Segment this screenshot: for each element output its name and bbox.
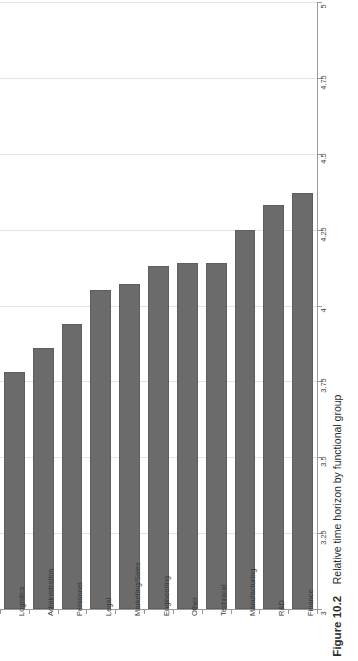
- category-axis-tick: [231, 610, 232, 614]
- category-axis-tick: [86, 610, 87, 614]
- bar: [90, 290, 111, 609]
- category-axis-label: Logistics: [17, 587, 26, 616]
- bar: [292, 193, 313, 609]
- value-axis-tick-label: 3.25: [319, 530, 328, 545]
- value-axis-tick-label: 4: [319, 308, 328, 312]
- value-axis-tick: [318, 306, 322, 307]
- value-axis-tick-label: 4.5: [319, 153, 328, 163]
- caption-text: Relative time horizon by functional grou…: [331, 395, 343, 585]
- bar: [235, 230, 256, 609]
- category-axis-label: Personnel: [75, 582, 84, 616]
- bar: [62, 324, 83, 609]
- value-axis-tick-label: 3: [319, 611, 328, 615]
- category-axis-label: Manufacturing: [248, 568, 257, 616]
- gridline: [0, 78, 317, 79]
- category-axis-label: Technical: [219, 585, 228, 616]
- category-axis-label: Other: [190, 597, 199, 616]
- gridline: [0, 2, 317, 3]
- value-axis-tick: [318, 2, 322, 3]
- category-axis-label: R&D: [277, 600, 286, 616]
- category-axis-tick: [317, 610, 318, 614]
- category-axis-tick: [288, 610, 289, 614]
- chart-area: 33.253.53.7544.254.54.755 LogisticsAdmin…: [0, 0, 318, 661]
- figure-caption: Figure 10.2 Relative time horizon by fun…: [333, 0, 355, 661]
- bar: [148, 266, 169, 609]
- gridline: [0, 154, 317, 155]
- category-axis-label: Administration: [46, 568, 55, 616]
- category-axis-tick: [144, 610, 145, 614]
- bar: [119, 284, 140, 609]
- bar: [206, 263, 227, 609]
- bar: [4, 372, 25, 609]
- value-axis-tick-label: 4.75: [319, 75, 328, 90]
- category-axis-tick: [58, 610, 59, 614]
- category-axis-label: Legal: [104, 598, 113, 616]
- category-axis-label: Finance: [306, 589, 315, 616]
- category-axis-tick: [173, 610, 174, 614]
- category-axis-tick: [115, 610, 116, 614]
- figure-container: 33.253.53.7544.254.54.755 LogisticsAdmin…: [0, 0, 358, 661]
- value-axis-tick-label: 4.25: [319, 227, 328, 242]
- value-axis-tick-label: 5: [319, 4, 328, 8]
- bar: [263, 205, 284, 609]
- value-axis-tick-label: 3.5: [319, 457, 328, 467]
- category-axis-tick: [29, 610, 30, 614]
- value-axis-tick-label: 3.75: [319, 379, 328, 394]
- category-axis-tick: [259, 610, 260, 614]
- value-axis-tick: [318, 609, 322, 610]
- category-axis-label: Engineering: [162, 576, 171, 616]
- category-axis-tick: [202, 610, 203, 614]
- category-axis-label: Marketing/Sales: [133, 562, 142, 616]
- category-axis-tick: [0, 610, 1, 614]
- caption-label: Figure 10.2: [331, 596, 343, 657]
- bar: [177, 263, 198, 609]
